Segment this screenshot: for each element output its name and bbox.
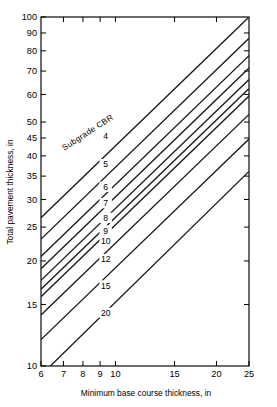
y-tick-label-30: 30 (27, 195, 37, 205)
x-tick-label-6: 6 (38, 369, 43, 379)
curve-label-cbr-20: 20 (101, 308, 111, 318)
curve-label-cbr-15: 15 (101, 281, 111, 291)
x-tick-label-10: 10 (110, 369, 120, 379)
chart-canvas: 678910152025 101520253035404550607080901… (0, 0, 277, 407)
curve-cbr-8 (41, 80, 249, 281)
curve-cbr-9 (41, 88, 249, 289)
x-tick-label-9: 9 (98, 369, 103, 379)
curve-label-cbr-8: 8 (103, 213, 108, 223)
x-axis-title: Minimum base course thickness, in (81, 388, 212, 398)
y-tick-label-60: 60 (27, 90, 37, 100)
y-tick-label-20: 20 (27, 256, 37, 266)
x-tick-label-7: 7 (61, 369, 66, 379)
y-tick-label-35: 35 (27, 171, 37, 181)
y-axis-tick-labels: 10152025303540455060708090100 (22, 12, 37, 371)
x-tick-label-25: 25 (244, 369, 254, 379)
x-axis-tick-labels: 678910152025 (38, 369, 254, 379)
curve-cbr-10 (41, 96, 249, 297)
y-tick-label-15: 15 (27, 300, 37, 310)
plot-frame (41, 17, 249, 366)
curve-label-cbr-4: 4 (103, 131, 108, 141)
y-tick-label-10: 10 (27, 361, 37, 371)
curve-cbr-4 (41, 17, 249, 218)
curve-label-cbr-10: 10 (101, 236, 111, 246)
curve-label-cbr-7: 7 (103, 198, 108, 208)
y-axis-ticks (41, 17, 249, 366)
x-axis-ticks (41, 17, 249, 366)
y-tick-label-70: 70 (27, 66, 37, 76)
y-tick-label-25: 25 (27, 222, 37, 232)
curve-label-cbr-9: 9 (103, 226, 108, 236)
y-tick-label-100: 100 (22, 12, 37, 22)
y-tick-label-80: 80 (27, 46, 37, 56)
y-tick-label-90: 90 (27, 28, 37, 38)
curve-label-cbr-6: 6 (103, 182, 108, 192)
y-tick-label-45: 45 (27, 133, 37, 143)
cbr-curves (41, 17, 249, 366)
x-tick-label-20: 20 (211, 369, 221, 379)
x-tick-label-8: 8 (80, 369, 85, 379)
cbr-pavement-design-chart: 678910152025 101520253035404550607080901… (0, 0, 277, 407)
y-tick-label-50: 50 (27, 117, 37, 127)
y-tick-label-40: 40 (27, 151, 37, 161)
x-tick-label-15: 15 (169, 369, 179, 379)
cbr-curve-labels: 45678910121520 (99, 130, 111, 318)
y-axis-title: Total pavement thickness, in (5, 139, 15, 245)
curve-label-cbr-5: 5 (103, 159, 108, 169)
curve-cbr-6 (41, 56, 249, 257)
curve-label-cbr-12: 12 (101, 254, 111, 264)
